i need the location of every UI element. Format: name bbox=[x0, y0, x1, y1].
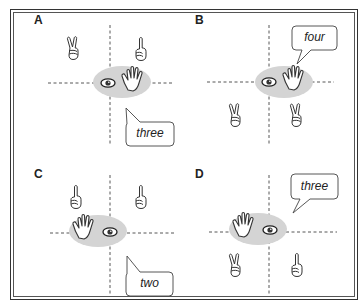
eye-icon bbox=[263, 226, 277, 234]
panel-label-a: A bbox=[34, 13, 43, 27]
eye-icon bbox=[262, 78, 276, 86]
eye-icon bbox=[103, 228, 117, 236]
panel-label-c: C bbox=[34, 167, 43, 181]
speech-text-d: three bbox=[291, 179, 338, 193]
speech-text-c: two bbox=[126, 276, 173, 290]
index-finger-icon bbox=[136, 186, 146, 209]
panel-label-d: D bbox=[195, 167, 204, 181]
victory-hand-icon bbox=[229, 254, 240, 277]
victory-hand-icon bbox=[67, 37, 78, 60]
speech-text-b: four bbox=[292, 30, 337, 44]
victory-hand-icon bbox=[229, 104, 240, 127]
eye-icon bbox=[101, 79, 115, 87]
panel-label-b: B bbox=[195, 13, 204, 27]
victory-hand-icon bbox=[290, 104, 301, 127]
speech-text-a: three bbox=[126, 126, 174, 140]
index-finger-icon bbox=[136, 38, 146, 61]
figure-canvas bbox=[0, 0, 363, 308]
index-finger-icon bbox=[71, 186, 81, 209]
index-finger-icon bbox=[292, 254, 302, 277]
